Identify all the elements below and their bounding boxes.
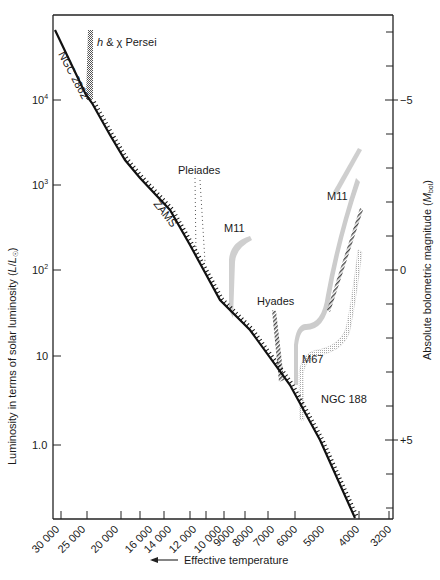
x-axis-title: Effective temperature [150, 554, 288, 566]
label-zams: ZAMS [151, 198, 179, 229]
band-m11-left [229, 236, 252, 318]
x-tick-20000: 20 000 [88, 523, 120, 555]
left-axis: 104 103 102 10 1.0 [32, 93, 61, 451]
label-m11-right: M11 [327, 190, 348, 202]
x-axis: 30 000 25 000 20 000 16 000 14 000 12 00… [29, 511, 393, 555]
tick-label-1e3: 103 [32, 178, 48, 191]
tick-label-1: 1.0 [32, 439, 47, 451]
label-ngc188: NGC 188 [321, 393, 367, 405]
zams-line [55, 30, 357, 518]
band-hyades [272, 310, 284, 382]
x-tick-3200: 3200 [368, 523, 394, 549]
tick-label-1e4: 104 [32, 93, 48, 106]
tick-label-mag-plus5: +5 [400, 434, 413, 446]
x-tick-6000: 6000 [274, 523, 300, 549]
tick-label-10: 10 [36, 350, 48, 362]
right-axis: −5 0 +5 [385, 32, 413, 508]
x-tick-7000: 7000 [251, 523, 277, 549]
label-hyades: Hyades [257, 295, 295, 307]
x-tick-25000: 25 000 [55, 523, 87, 555]
x-tick-30000: 30 000 [29, 523, 61, 555]
tick-label-1e2: 102 [32, 263, 48, 276]
label-h-chi-persei: h & χ Persei [97, 36, 157, 48]
label-pleiades: Pleiades [178, 164, 221, 176]
svg-text:Effective temperature: Effective temperature [184, 554, 288, 566]
y-axis-left-title: Luminosity in terms of solar luminosity … [6, 247, 19, 465]
tick-label-mag-minus5: −5 [400, 94, 413, 106]
x-tick-4000: 4000 [336, 523, 362, 549]
label-m11-left: M11 [224, 222, 245, 234]
tick-label-mag-0: 0 [400, 264, 406, 276]
y-axis-right-title: Absolute bolometric magnitude (Mbol) [421, 180, 434, 360]
x-tick-5000: 5000 [301, 523, 327, 549]
x-tick-8000: 8000 [230, 523, 256, 549]
label-m67: M67 [302, 353, 323, 365]
hr-diagram: 104 103 102 10 1.0 Luminosity in terms o… [0, 0, 440, 580]
label-ngc2862: NGC 2862 [56, 49, 91, 101]
